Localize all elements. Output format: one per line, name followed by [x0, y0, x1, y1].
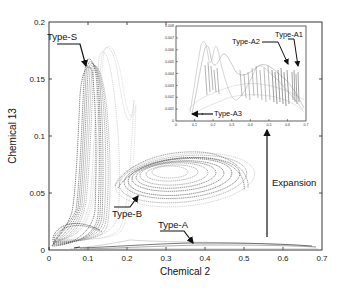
- inset-x-tick-label: 0.6: [285, 123, 290, 127]
- inset-y-tick-label: 0.005: [165, 60, 174, 64]
- x-tick-label: 0.7: [316, 254, 328, 263]
- x-tick-label: 0.2: [121, 254, 133, 263]
- x-axis-tick-labels: 0 0.1 0.2 0.3 0.4 0.5 0.6 0.7: [47, 254, 328, 263]
- type-s-arrow: [57, 44, 86, 66]
- y-tick-label: 0.2: [34, 18, 46, 27]
- x-tick-label: 0: [47, 254, 52, 263]
- type-b-orbits: [113, 147, 258, 213]
- x-tick-label: 0.1: [82, 254, 94, 263]
- inset-y-tick-label: 0: [172, 119, 174, 123]
- inset-x-tick-label: 0.5: [266, 123, 271, 127]
- inset-x-tick-labels: 0 0.1 0.2 0.3 0.4 0.5 0.6 0.7: [175, 123, 309, 127]
- inset-x-tick-label: 0.7: [304, 123, 309, 127]
- type-a-orbits: [70, 240, 318, 249]
- inset-y-tick-label: 0.004: [165, 72, 174, 76]
- phase-plot-figure: 0 0.1 0.2 0.3 0.4 0.5 0.6 0.7 0 0.05 0.1…: [0, 0, 342, 297]
- inset-plot: 0 0.1 0.2 0.3 0.4 0.5 0.6 0.7 0 0.001 0.…: [165, 24, 309, 127]
- inset-x-tick-label: 0: [175, 123, 177, 127]
- y-tick-label: 0.05: [29, 189, 45, 198]
- y-tick-label: 0.1: [34, 132, 46, 141]
- type-a-label: Type-A: [158, 219, 189, 230]
- inset-y-tick-label: 0.008: [165, 24, 174, 28]
- inset-y-tick-label: 0.001: [165, 107, 174, 111]
- type-s-label: Type-S: [47, 31, 77, 42]
- y-axis-tick-labels: 0 0.05 0.1 0.15 0.2: [29, 18, 45, 255]
- inset-x-tick-label: 0.3: [229, 123, 234, 127]
- y-axis-label: Chemical 13: [7, 108, 18, 164]
- inset-y-tick-labels: 0 0.001 0.002 0.003 0.004 0.005 0.006 0.…: [165, 24, 174, 123]
- inset-x-tick-label: 0.1: [192, 123, 197, 127]
- x-tick-label: 0.6: [277, 254, 289, 263]
- y-tick-label: 0: [41, 246, 46, 255]
- type-a1-label: Type-A1: [275, 30, 303, 39]
- y-tick-label: 0.15: [29, 75, 45, 84]
- type-b-label: Type-B: [112, 208, 142, 219]
- type-a3-label: Type-A3: [214, 109, 242, 118]
- inset-y-tick-label: 0.003: [165, 84, 174, 88]
- x-tick-label: 0.4: [199, 254, 211, 263]
- expansion-label: Expansion: [272, 177, 316, 188]
- x-axis-label: Chemical 2: [160, 266, 210, 277]
- x-tick-label: 0.3: [160, 254, 172, 263]
- inset-x-tick-label: 0.4: [248, 123, 253, 127]
- inset-y-tick-label: 0.006: [165, 48, 174, 52]
- inset-y-tick-label: 0.002: [165, 95, 174, 99]
- inset-x-tick-label: 0.2: [211, 123, 216, 127]
- x-tick-label: 0.5: [238, 254, 250, 263]
- inset-y-tick-label: 0.007: [165, 36, 174, 40]
- type-a2-label: Type-A2: [232, 37, 260, 46]
